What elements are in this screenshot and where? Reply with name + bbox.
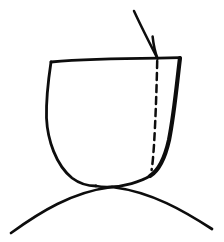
- line-drawing-svg: [0, 0, 224, 242]
- figure-canvas: Line drawing of a crown-shaped outline w…: [0, 0, 224, 242]
- figure-background: [0, 0, 224, 242]
